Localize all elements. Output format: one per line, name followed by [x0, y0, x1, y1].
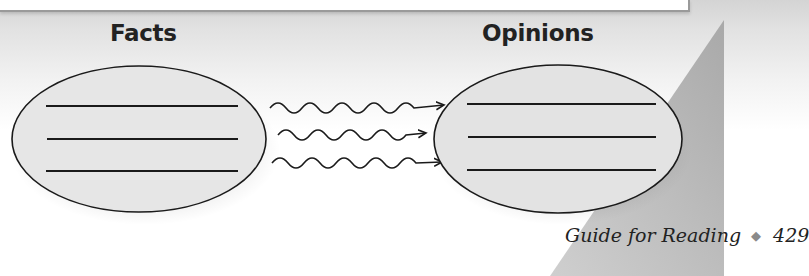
wavy-arrow-1 [270, 103, 444, 113]
facts-ellipse [10, 66, 280, 225]
page-footer: Guide for Reading◆429 [565, 224, 809, 246]
opinions-ellipse [432, 65, 692, 225]
wavy-arrows [270, 103, 444, 168]
section-title: Guide for Reading [565, 224, 741, 246]
diamond-icon: ◆ [751, 228, 761, 243]
wavy-arrow-2 [278, 130, 426, 140]
page-number: 429 [773, 224, 809, 246]
wavy-arrow-3 [272, 158, 442, 168]
